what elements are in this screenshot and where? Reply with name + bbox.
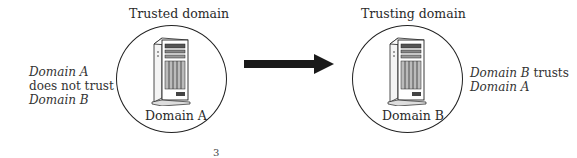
- note-trusts: trusts: [530, 66, 569, 80]
- domain-a-note: Domain A does not trust Domain B: [29, 65, 114, 107]
- domain-a-label: Domain A: [145, 108, 207, 123]
- trusted-domain-title: Trusted domain: [129, 6, 229, 21]
- arrow-right-icon: [244, 54, 336, 74]
- note-domain-a: Domain A: [29, 65, 88, 79]
- note-domain-b-italic: Domain B: [470, 66, 530, 80]
- note-does-not-trust: does not trust: [29, 79, 114, 93]
- trusting-domain-title: Trusting domain: [361, 6, 466, 21]
- server-tower-icon: [150, 36, 196, 106]
- server-tower-icon: [386, 36, 432, 106]
- domain-b-label: Domain B: [382, 108, 444, 123]
- note-domain-a-italic: Domain A: [470, 80, 529, 94]
- domain-b-note: Domain B trusts Domain A: [470, 66, 569, 94]
- page-number-fragment: 3: [213, 147, 219, 158]
- note-domain-b: Domain B: [29, 93, 89, 107]
